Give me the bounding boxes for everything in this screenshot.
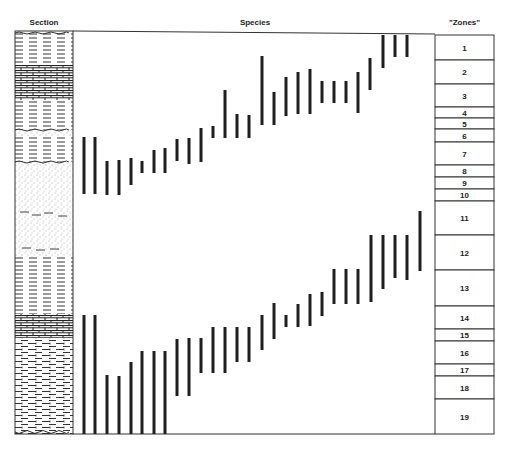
zone-label: 7: [462, 150, 467, 159]
zone-label: 19: [460, 413, 469, 422]
species-top-border: [73, 31, 435, 34]
zone-label: 6: [462, 132, 467, 141]
section-layer-shale: [15, 257, 73, 314]
zone-label: 8: [462, 167, 467, 176]
zone-label: 5: [462, 120, 467, 129]
zone-label: 2: [462, 68, 467, 77]
zone-label: 15: [460, 331, 469, 340]
section-layer-shale: [15, 100, 73, 130]
section-column: [15, 31, 73, 434]
section-layer-shaly-limestone: [15, 338, 73, 434]
species-ranges-upper: [84, 35, 407, 195]
zone-label: 11: [460, 214, 469, 223]
zone-label: 1: [462, 44, 467, 53]
zone-label: 3: [462, 92, 467, 101]
zone-label: 9: [462, 179, 467, 188]
zone-label: 13: [460, 284, 469, 293]
zone-label: 18: [460, 384, 469, 393]
zone-label: 10: [460, 191, 469, 200]
species-ranges-lower: [84, 211, 420, 434]
section-layer-limestone: [15, 65, 73, 100]
section-layer-shale: [15, 136, 73, 162]
section-layer-limestone: [15, 314, 73, 338]
section-layer-sandstone: [15, 162, 73, 196]
zone-label: 4: [462, 109, 467, 118]
zone-label: 16: [460, 349, 469, 358]
zones-column: 12345678910111213141516171819: [435, 35, 494, 434]
zone-label: 17: [460, 366, 469, 375]
zone-label: 14: [460, 314, 469, 323]
section-layer-shale: [15, 31, 73, 65]
range-chart-diagram: 12345678910111213141516171819: [0, 0, 508, 450]
zone-label: 12: [460, 249, 469, 258]
